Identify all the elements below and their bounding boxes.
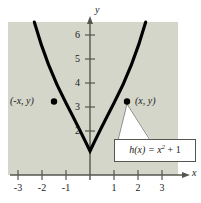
- right-point-label: (x, y): [135, 96, 156, 106]
- x-tick-label-minus3: -3: [10, 183, 26, 193]
- y-tick-label-6: 6: [66, 30, 80, 40]
- y-tick-label-4: 4: [66, 78, 80, 88]
- x-tick-label-minus2: -2: [34, 183, 50, 193]
- equation-suffix: + 1: [165, 144, 181, 155]
- y-tick-label-5: 5: [66, 54, 80, 64]
- point-marker-left: [51, 98, 57, 104]
- graph-figure: 6 5 4 3 2 -3 -2 -1 1 2 3 y x (-x, y) (x,…: [0, 0, 201, 203]
- y-axis-label: y: [95, 5, 99, 15]
- equation-prefix: h(x) = x: [129, 144, 161, 155]
- y-tick-label-3: 3: [66, 102, 80, 112]
- y-tick-label-2: 2: [66, 126, 80, 136]
- y-axis: [85, 16, 95, 180]
- x-axis: [10, 170, 190, 180]
- point-marker-right: [124, 98, 130, 104]
- x-tick-label-2: 2: [131, 183, 145, 193]
- equation-callout-text: h(x) = x2 + 1: [114, 144, 196, 155]
- left-point-label: (-x, y): [10, 96, 34, 106]
- x-tick-label-3: 3: [155, 183, 169, 193]
- x-axis-label: x: [192, 168, 196, 178]
- x-tick-label-1: 1: [107, 183, 121, 193]
- x-tick-label-minus1: -1: [58, 183, 74, 193]
